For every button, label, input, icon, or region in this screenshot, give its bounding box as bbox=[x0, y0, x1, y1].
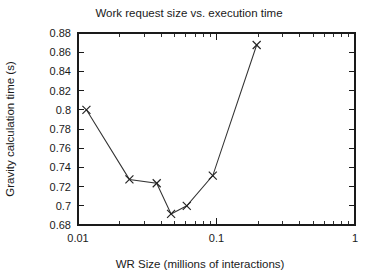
y-tick-label: 0.8 bbox=[56, 104, 71, 116]
y-tick-label: 0.74 bbox=[50, 161, 71, 173]
x-tick-label: 1 bbox=[352, 232, 358, 244]
y-tick-label: 0.82 bbox=[50, 85, 71, 97]
y-tick-label: 0.86 bbox=[50, 46, 71, 58]
chart-figure: Work request size vs. execution time Gra… bbox=[0, 0, 379, 280]
chart-background bbox=[0, 0, 379, 280]
x-tick-label: 0.01 bbox=[67, 232, 88, 244]
y-tick-label: 0.68 bbox=[50, 219, 71, 231]
chart-title: Work request size vs. execution time bbox=[95, 7, 282, 19]
y-tick-label: 0.78 bbox=[50, 123, 71, 135]
y-axis-title: Gravity calculation time (s) bbox=[4, 61, 16, 197]
y-tick-label: 0.84 bbox=[50, 65, 71, 77]
y-tick-label: 0.88 bbox=[50, 27, 71, 39]
y-tick-label: 0.7 bbox=[56, 200, 71, 212]
y-tick-label: 0.72 bbox=[50, 181, 71, 193]
y-tick-label: 0.76 bbox=[50, 142, 71, 154]
x-tick-label: 0.1 bbox=[209, 232, 224, 244]
x-axis-title: WR Size (millions of interactions) bbox=[116, 258, 285, 270]
line-chart: Work request size vs. execution time Gra… bbox=[0, 0, 379, 280]
